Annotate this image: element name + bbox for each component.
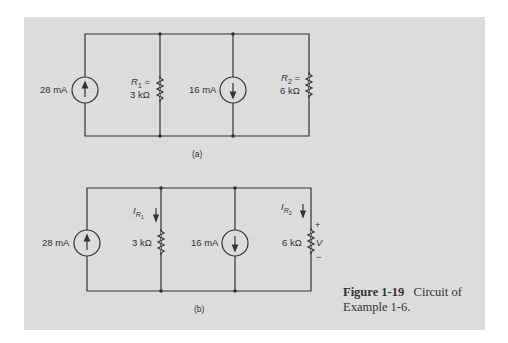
r2-label-a: R2 = — [281, 72, 300, 83]
r2-value-b: 6 kΩ — [282, 237, 302, 248]
ir1-label: IR1 — [133, 205, 144, 216]
ir2-label: IR2 — [281, 201, 292, 212]
resistor-r1-b — [158, 229, 164, 255]
r1-value-a: 3 kΩ — [130, 89, 150, 100]
resistor-r1-a — [157, 76, 163, 102]
r1-value-b: 3 kΩ — [132, 237, 152, 248]
junction-dots — [158, 32, 237, 293]
voltage-label: V — [316, 237, 322, 248]
r2-value-a: 6 kΩ — [280, 85, 300, 96]
resistor-r2-a — [306, 72, 312, 98]
current-arrow-ir1-icon — [154, 208, 158, 221]
source1-value-b: 28 mA — [42, 237, 69, 248]
r1-label-a: R1 = — [131, 76, 150, 87]
source2-value-b: 16 mA — [191, 237, 218, 248]
source2-value-a: 16 mA — [189, 84, 216, 95]
caption-text-2: Example 1-6. — [343, 300, 410, 314]
figure-number: Figure 1-19 — [343, 285, 404, 299]
caption-text: Circuit of — [414, 285, 462, 299]
voltage-plus-sign: + — [315, 220, 320, 230]
resistor-r2-b — [308, 228, 314, 254]
arrow-up-icon — [83, 82, 88, 97]
voltage-minus-sign: − — [316, 252, 321, 262]
arrow-down-icon — [233, 236, 238, 251]
current-arrow-ir2-icon — [301, 204, 305, 217]
subfigure-label-a: (a) — [192, 149, 202, 159]
source1-value-a: 28 mA — [40, 84, 67, 95]
arrow-down-icon — [231, 83, 236, 98]
figure-caption: Figure 1-19 Circuit of Example 1-6. — [343, 285, 483, 315]
arrow-up-icon — [85, 235, 90, 250]
subfigure-label-b: (b) — [194, 304, 204, 314]
